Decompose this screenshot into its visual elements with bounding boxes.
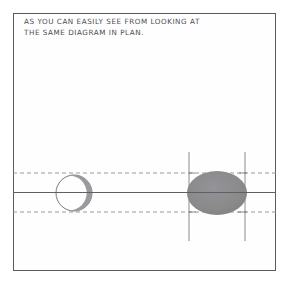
- diagram-drawing-area: [13, 13, 276, 271]
- diagram-svg: [13, 13, 276, 271]
- diagram-scene: AS YOU CAN EASILY SEE FROM LOOKING AT TH…: [0, 0, 293, 286]
- circle-crescent-shading: [53, 171, 98, 216]
